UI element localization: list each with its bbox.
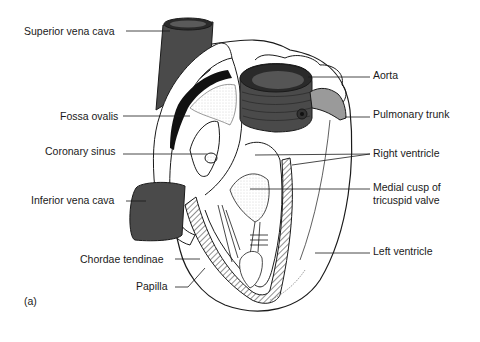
label-chordae-tendinae: Chordae tendinae [80,253,163,265]
label-medial-cusp-line1: Medial cusp of [373,181,441,193]
inferior-vena-cava-shape [130,182,185,240]
label-coronary-sinus: Coronary sinus [45,145,116,157]
label-superior-vena-cava: Superior vena cava [24,25,114,37]
label-medial-cusp-line2: tricuspid valve [373,194,440,206]
label-aorta: Aorta [373,69,398,81]
coronary-sinus-shape [205,153,217,163]
heart-diagram: Superior vena cava Fossa ovalis Coronary… [0,0,480,342]
label-pulmonary-trunk: Pulmonary trunk [373,108,449,120]
panel-label: (a) [24,295,37,307]
label-left-ventricle: Left ventricle [373,245,433,257]
label-papilla: Papilla [136,280,168,292]
label-inferior-vena-cava: Inferior vena cava [31,194,114,206]
label-fossa-ovalis: Fossa ovalis [60,110,118,122]
label-right-ventricle: Right ventricle [373,147,440,159]
heart-illustration [0,0,480,342]
